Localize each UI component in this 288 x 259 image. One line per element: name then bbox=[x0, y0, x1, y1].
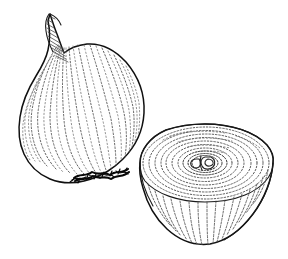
onion-illustration-svg: Onion botanical line illustration Two on… bbox=[0, 0, 288, 259]
paper-background bbox=[0, 0, 288, 259]
onion-illustration-canvas: Onion botanical line illustration Two on… bbox=[0, 0, 288, 259]
